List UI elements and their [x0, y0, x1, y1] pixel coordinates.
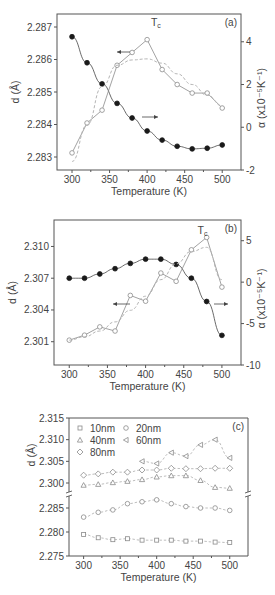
- panel-label: (c): [232, 421, 244, 432]
- x-axis-label: Temperature (K): [110, 380, 186, 392]
- x-axis-label: Temperature (K): [111, 185, 187, 197]
- svg-text:450: 450: [185, 560, 202, 571]
- legend-item-20nm: 20nm: [124, 423, 161, 434]
- svg-text:500: 500: [214, 369, 231, 380]
- svg-text:500: 500: [214, 174, 231, 185]
- svg-text:2.310: 2.310: [24, 241, 49, 252]
- legend-item-80nm: 80nm: [77, 447, 115, 458]
- y-axis-label: d (Å): [6, 281, 18, 304]
- svg-text:2.304: 2.304: [24, 304, 49, 315]
- svg-text:2.283: 2.283: [27, 152, 52, 163]
- svg-text:10nm: 10nm: [90, 423, 115, 434]
- svg-text:300: 300: [75, 560, 92, 571]
- x-axis-label: Temperature (K): [121, 571, 197, 583]
- tc-annotation: Tc: [151, 16, 161, 29]
- chart-panel-b: 3003504004505002.3012.3042.3072.310-10-5…: [6, 220, 267, 392]
- svg-text:20nm: 20nm: [136, 423, 161, 434]
- svg-text:400: 400: [137, 369, 154, 380]
- svg-text:350: 350: [99, 369, 116, 380]
- svg-text:350: 350: [112, 560, 129, 571]
- legend-item-60nm: 60nm: [123, 435, 161, 446]
- legend-item-10nm: 10nm: [78, 423, 115, 434]
- svg-text:2.286: 2.286: [27, 54, 52, 65]
- svg-text:450: 450: [176, 174, 193, 185]
- svg-text:400: 400: [139, 174, 156, 185]
- y-axis-label: d (Å): [25, 444, 37, 467]
- svg-text:-2: -2: [246, 165, 255, 176]
- chart-panel-c: 3003504004505002.3002.3052.3102.3152.275…: [25, 413, 251, 584]
- svg-text:2.307: 2.307: [24, 273, 49, 284]
- svg-text:0: 0: [246, 122, 252, 133]
- svg-text:2.275: 2.275: [39, 551, 64, 562]
- tc-annotation: Tc: [197, 224, 207, 237]
- svg-text:2.285: 2.285: [27, 87, 52, 98]
- panel-label: (a): [225, 17, 237, 28]
- svg-text:300: 300: [64, 174, 81, 185]
- svg-text:4: 4: [246, 36, 252, 47]
- svg-text:2.300: 2.300: [39, 478, 64, 489]
- svg-text:-10: -10: [246, 360, 261, 371]
- svg-text:2.315: 2.315: [39, 413, 64, 424]
- y2-axis-label: α (x10⁻⁵K⁻¹): [255, 269, 267, 329]
- svg-text:80nm: 80nm: [90, 447, 115, 458]
- panel-label: (b): [225, 223, 237, 234]
- svg-text:2.287: 2.287: [27, 22, 52, 33]
- svg-text:300: 300: [61, 369, 78, 380]
- figure: 3003504004505002.2832.2842.2852.2862.287…: [0, 0, 275, 595]
- svg-text:60nm: 60nm: [136, 435, 161, 446]
- svg-text:-5: -5: [246, 318, 255, 329]
- y-axis-label: d (Å): [9, 81, 21, 104]
- svg-text:0: 0: [246, 277, 252, 288]
- legend-item-40nm: 40nm: [77, 435, 115, 446]
- svg-text:5: 5: [246, 235, 252, 246]
- svg-text:400: 400: [148, 560, 165, 571]
- y2-axis-label: α (x10⁻⁵K⁻¹): [255, 68, 267, 128]
- chart-panel-a: 3003504004505002.2832.2842.2852.2862.287…: [9, 14, 267, 197]
- svg-text:40nm: 40nm: [90, 435, 115, 446]
- svg-text:2: 2: [246, 79, 252, 90]
- svg-text:450: 450: [175, 369, 192, 380]
- svg-text:2.280: 2.280: [39, 527, 64, 538]
- svg-text:2.310: 2.310: [39, 434, 64, 445]
- svg-text:2.285: 2.285: [39, 503, 64, 514]
- svg-text:2.301: 2.301: [24, 336, 49, 347]
- svg-text:500: 500: [221, 560, 238, 571]
- svg-text:2.305: 2.305: [39, 456, 64, 467]
- svg-text:350: 350: [101, 174, 118, 185]
- svg-text:2.284: 2.284: [27, 119, 52, 130]
